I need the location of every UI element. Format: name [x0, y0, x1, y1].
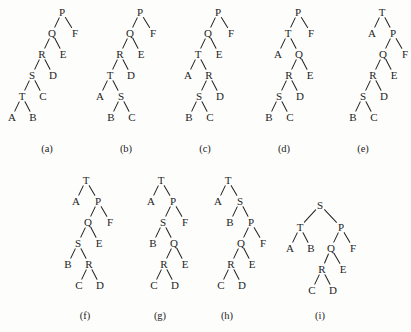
tree-node-a-p: P — [59, 7, 65, 18]
tree-node-a-t: T — [19, 91, 26, 102]
tree-node-a-q: Q — [48, 28, 56, 39]
tree-edge — [304, 210, 315, 222]
tree-node-h-a: A — [214, 196, 222, 207]
tree-node-h-t: T — [225, 175, 232, 186]
tree-node-b-s: S — [118, 91, 124, 102]
tree-node-h-s: S — [237, 196, 243, 207]
tree-node-b-c: C — [128, 112, 135, 123]
tree-node-g-s: S — [160, 217, 166, 228]
tree-node-d-b: B — [265, 112, 272, 123]
tree-node-g-f: F — [182, 217, 188, 228]
tree-node-g-a: A — [147, 196, 155, 207]
tree-node-g-b: B — [149, 238, 156, 249]
tree-edge — [396, 39, 402, 49]
tree-node-b-b: B — [107, 112, 114, 123]
tree-edge — [192, 102, 196, 111]
tree-node-d-f: F — [308, 28, 314, 39]
tree-node-i-a: A — [286, 243, 294, 254]
tree-node-a-a: A — [8, 112, 16, 123]
tree-edge — [82, 270, 86, 279]
tree-edge — [202, 81, 206, 90]
tree-node-e-s: S — [360, 91, 366, 102]
tree-node-h-p: P — [248, 217, 254, 228]
tree-edge — [89, 186, 95, 196]
tree-node-b-a: A — [96, 91, 104, 102]
tree-edge — [166, 207, 170, 216]
tree-node-b-q: Q — [126, 28, 134, 39]
tree-edge — [301, 18, 307, 28]
tree-node-d-s: S — [276, 91, 282, 102]
tree-node-b-d: D — [127, 70, 135, 81]
tree-edge — [324, 210, 336, 223]
tree-edge — [123, 39, 127, 48]
tree-node-f-d: D — [96, 280, 104, 291]
tree-node-f-c: C — [75, 280, 82, 291]
tree-node-i-r: R — [318, 264, 325, 275]
tree-edge — [344, 233, 350, 243]
tree-figure: PQFRESDTCAB(a)PQFRETDASBC(b)PQFTEARSDBC(… — [0, 0, 411, 332]
tree-node-a-b: B — [29, 112, 36, 123]
tree-caption-a: (a) — [41, 143, 53, 154]
tree-node-h-d: D — [238, 280, 246, 291]
tree-node-h-b: B — [226, 217, 233, 228]
tree-node-e-a: A — [368, 28, 376, 39]
tree-node-h-e: E — [249, 259, 256, 270]
tree-edge — [292, 60, 296, 69]
tree-node-h-c: C — [217, 280, 224, 291]
tree-node-a-f: F — [72, 28, 78, 39]
tree-node-g-q: Q — [170, 238, 178, 249]
tree-node-e-c: C — [370, 112, 377, 123]
tree-edge — [221, 18, 227, 28]
tree-node-a-r: R — [38, 49, 45, 60]
tree-edge — [157, 270, 161, 279]
tree-node-f-b: B — [64, 259, 71, 270]
tree-node-b-e: E — [138, 49, 145, 60]
tree-edge — [224, 270, 228, 279]
tree-caption-e: (e) — [357, 143, 369, 154]
tree-node-c-a: A — [184, 70, 192, 81]
tree-caption-i: (i) — [315, 310, 325, 321]
tree-node-e-b: B — [349, 112, 356, 123]
tree-edge — [176, 207, 182, 217]
tree-edge — [231, 186, 237, 196]
tree-edge — [45, 39, 49, 48]
tree-node-c-q: Q — [204, 28, 212, 39]
tree-node-c-c: C — [206, 112, 213, 123]
tree-caption-g: (g) — [154, 310, 166, 321]
tree-node-i-c: C — [308, 285, 315, 296]
tree-node-f-t: T — [83, 175, 90, 186]
tree-caption-b: (b) — [120, 143, 132, 154]
tree-node-i-b: B — [307, 243, 314, 254]
tree-edge — [233, 207, 237, 216]
tree-edge — [71, 249, 75, 258]
tree-node-e-d: D — [380, 91, 388, 102]
tree-node-a-e: E — [60, 49, 67, 60]
tree-caption-f: (f) — [80, 310, 91, 321]
tree-node-f-f: F — [107, 217, 113, 228]
tree-node-g-r: R — [160, 259, 167, 270]
tree-node-c-t: T — [195, 49, 202, 60]
tree-edge — [101, 207, 107, 217]
tree-node-d-c: C — [286, 112, 293, 123]
tree-node-c-e: E — [216, 49, 223, 60]
tree-node-d-q: Q — [295, 49, 303, 60]
tree-edge — [282, 81, 286, 90]
tree-edge — [114, 102, 118, 111]
tree-node-d-r: R — [285, 70, 292, 81]
tree-node-b-p: P — [137, 7, 143, 18]
tree-node-e-q: Q — [379, 49, 387, 60]
tree-node-i-f: F — [350, 243, 356, 254]
tree-node-b-r: R — [116, 49, 123, 60]
tree-edge — [356, 102, 360, 111]
tree-node-c-r: R — [205, 70, 212, 81]
tree-caption-h: (h) — [221, 310, 233, 321]
tree-node-g-e: E — [182, 259, 189, 270]
tree-node-d-a: A — [274, 49, 282, 60]
tree-edge — [156, 228, 160, 237]
tree-node-g-d: D — [171, 280, 179, 291]
tree-node-f-s: S — [75, 238, 81, 249]
tree-edge — [315, 275, 319, 284]
tree-node-c-f: F — [228, 28, 234, 39]
tree-edge — [272, 102, 276, 111]
tree-node-i-e: E — [340, 264, 347, 275]
